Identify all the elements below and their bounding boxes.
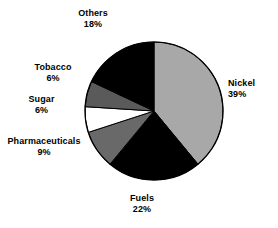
- pie-label-fuels-value: 22%: [112, 204, 172, 215]
- pie-label-others-name: Others: [63, 8, 123, 19]
- pie-label-pharmaceuticals-name: Pharmaceuticals: [2, 136, 86, 147]
- pie-slice-group: [85, 42, 223, 180]
- pie-label-others-value: 18%: [63, 19, 123, 30]
- pie-label-sugar: Sugar 6%: [14, 94, 69, 116]
- pie-label-tobacco-value: 6%: [22, 73, 84, 84]
- pie-label-others: Others 18%: [63, 8, 123, 30]
- pie-label-fuels-name: Fuels: [112, 193, 172, 204]
- pie-label-sugar-value: 6%: [14, 105, 69, 116]
- pie-chart: Others 18% Nickel 39% Fuels 22% Pharmace…: [0, 0, 278, 228]
- pie-label-pharmaceuticals-value: 9%: [2, 147, 86, 158]
- pie-label-tobacco: Tobacco 6%: [22, 62, 84, 84]
- pie-label-sugar-name: Sugar: [14, 94, 69, 105]
- pie-label-nickel-value: 39%: [228, 89, 274, 100]
- pie-label-pharmaceuticals: Pharmaceuticals 9%: [2, 136, 86, 158]
- pie-label-nickel: Nickel 39%: [228, 78, 274, 100]
- pie-label-tobacco-name: Tobacco: [22, 62, 84, 73]
- pie-label-fuels: Fuels 22%: [112, 193, 172, 215]
- pie-label-nickel-name: Nickel: [228, 78, 274, 89]
